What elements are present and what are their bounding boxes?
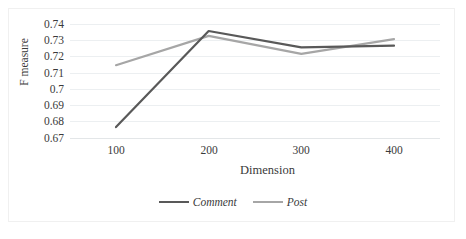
chart-figure: 0.74 0.73 0.72 0.71 0.7 0.69 0.68 0.67 F… <box>0 0 466 239</box>
legend-label-comment: Comment <box>193 196 237 208</box>
x-axis-tick-label: 200 <box>179 145 239 157</box>
x-axis-title: Dimension <box>95 163 440 178</box>
legend-item-post[interactable]: Post <box>253 196 307 208</box>
legend-label-post: Post <box>287 196 307 208</box>
x-axis-tick-label: 100 <box>86 145 146 157</box>
legend-swatch-post-icon <box>253 201 283 204</box>
legend-swatch-comment-icon <box>159 201 189 204</box>
x-axis-tick-label: 300 <box>271 145 331 157</box>
legend-item-comment[interactable]: Comment <box>159 196 237 208</box>
x-axis-tick-label: 400 <box>364 145 424 157</box>
chart-legend: Comment Post <box>0 196 466 208</box>
